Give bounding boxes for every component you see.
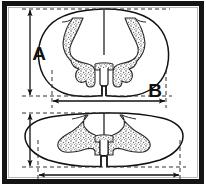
figure-container: A B	[0, 0, 206, 194]
lower-central-canal	[100, 140, 108, 156]
upper-central-canal	[100, 68, 108, 86]
dimension-label-b: B	[148, 80, 162, 101]
spinal-cord-dimension-diagram: A B	[0, 0, 206, 194]
dimension-label-a: A	[32, 43, 46, 64]
